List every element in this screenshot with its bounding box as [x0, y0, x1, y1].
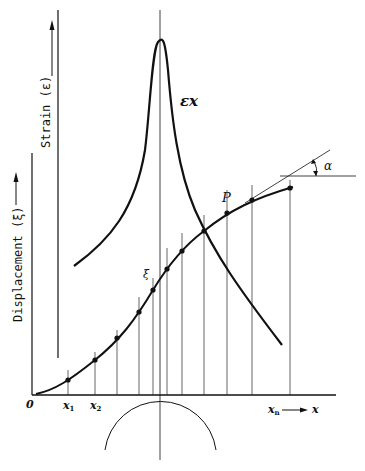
angle-arrow-bottom-icon [313, 171, 318, 176]
strain-curve-label: εx [180, 92, 199, 110]
tangent-line [245, 150, 330, 203]
displacement-axis-label: Displacement (ξ) [11, 206, 25, 322]
origin-label: 0 [26, 398, 34, 411]
displacement-curve [36, 187, 293, 394]
ordinate-lines [68, 180, 290, 395]
svg-text:Strain (ε): Strain (ε) [39, 76, 53, 148]
xi-label: ξ [143, 268, 150, 281]
svg-text:Displacement (ξ): Displacement (ξ) [11, 206, 25, 322]
x2-label: x2 [89, 399, 102, 413]
displacement-points [65, 185, 292, 382]
strain-axis-label: Strain (ε) [39, 76, 53, 148]
strain-curve [74, 40, 282, 345]
x-direction-arrow-icon [300, 408, 308, 413]
displacement-arrow-icon [14, 172, 19, 182]
x-axis-label: x [311, 403, 319, 416]
x1-label: x1 [62, 399, 75, 413]
alpha-label: α [324, 159, 332, 173]
strain-arrow-icon [50, 20, 55, 30]
point-p-label: P [221, 190, 231, 205]
semicircle [105, 401, 216, 450]
strain-displacement-diagram: Strain (ε) Displacement (ξ) [0, 0, 365, 471]
xn-label: xn [267, 403, 280, 417]
